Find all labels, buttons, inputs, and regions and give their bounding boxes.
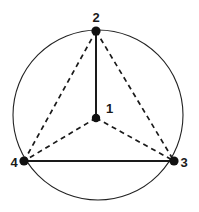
- edge-1-3: [96, 118, 174, 161]
- tetrahedron-diagram: 1234: [0, 0, 199, 212]
- node-dot-2[interactable]: [91, 26, 100, 35]
- node-label-4: 4: [10, 155, 18, 170]
- node-dot-1[interactable]: [92, 114, 100, 122]
- tetrahedron-figure: 1234: [0, 0, 199, 212]
- node-label-1: 1: [106, 101, 113, 116]
- node-label-2: 2: [92, 10, 99, 25]
- nodes-group: [19, 26, 178, 165]
- edge-2-3: [96, 31, 174, 161]
- edge-1-4: [24, 118, 96, 161]
- node-label-3: 3: [180, 155, 187, 170]
- edges-group: [24, 31, 174, 161]
- node-dot-3[interactable]: [169, 156, 178, 165]
- edge-2-4: [24, 31, 96, 161]
- node-dot-4[interactable]: [19, 156, 28, 165]
